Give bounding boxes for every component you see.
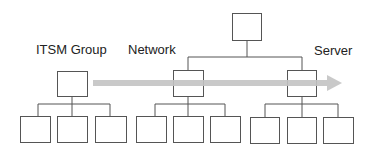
itsm-group-label: ITSM Group: [36, 42, 107, 57]
server-child-box-3: [324, 118, 354, 144]
itsm-child-box-2: [58, 117, 88, 143]
itsm-child-box-3: [96, 117, 127, 143]
network-child-box-2: [174, 117, 204, 143]
server-child-box-1: [251, 118, 280, 144]
itsm-group-box: [58, 72, 88, 97]
server-label: Server: [314, 43, 352, 58]
itsm-child-box-1: [21, 117, 51, 143]
network-child-box-3: [211, 117, 241, 143]
org-chart-diagram: [0, 0, 374, 154]
server-child-box-2: [288, 118, 317, 144]
root-box: [233, 14, 262, 41]
flow-arrow-icon: [93, 75, 342, 91]
network-label: Network: [128, 42, 176, 57]
network-child-box-1: [137, 117, 167, 143]
